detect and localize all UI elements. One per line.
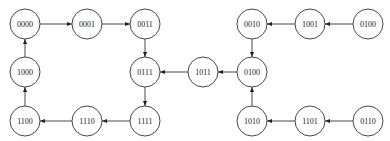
node-label: 0110 [360, 117, 376, 126]
node-label: 0100 [244, 68, 260, 77]
node-label: 0010 [244, 20, 260, 29]
state-node-1011: 1011 [188, 57, 218, 87]
node-label: 1100 [17, 117, 33, 126]
node-label: 1101 [302, 117, 318, 126]
state-node-1001: 1001 [295, 9, 325, 39]
node-label: 0111 [137, 68, 152, 77]
state-node-0000: 0000 [10, 9, 40, 39]
state-node-0011: 0011 [130, 9, 160, 39]
state-node-1010: 1010 [237, 106, 267, 136]
node-label: 1110 [79, 117, 94, 126]
state-diagram: 0000000100111000011111001110111110110100… [0, 0, 390, 141]
state-node-1110: 1110 [72, 106, 102, 136]
state-node-1101: 1101 [295, 106, 325, 136]
node-label: 0000 [17, 20, 33, 29]
node-label: 1001 [302, 20, 318, 29]
state-node-0100: 0100 [353, 9, 383, 39]
node-label: 0100 [360, 20, 376, 29]
state-node-0001: 0001 [72, 9, 102, 39]
node-label: 1011 [195, 68, 211, 77]
state-node-1100: 1100 [10, 106, 40, 136]
node-label: 1010 [244, 117, 260, 126]
state-node-1000: 1000 [10, 57, 40, 87]
node-label: 0001 [79, 20, 95, 29]
state-node-1111: 1111 [130, 106, 160, 136]
state-node-0100: 0100 [237, 57, 267, 87]
state-node-0110: 0110 [353, 106, 383, 136]
node-label: 0011 [137, 20, 153, 29]
state-node-0111: 0111 [130, 57, 160, 87]
nodes-layer: 0000000100111000011111001110111110110100… [10, 9, 383, 136]
state-node-0010: 0010 [237, 9, 267, 39]
node-label: 1111 [137, 117, 152, 126]
node-label: 1000 [17, 68, 33, 77]
